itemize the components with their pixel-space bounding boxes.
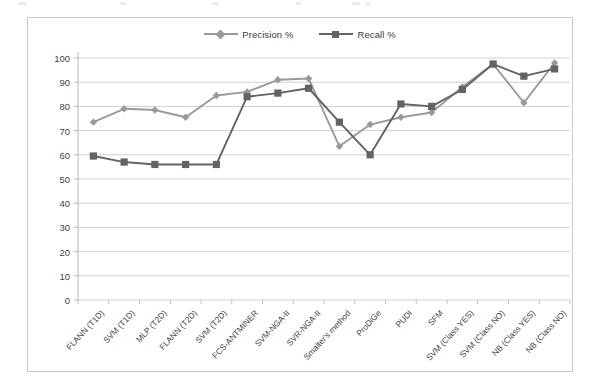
data-point-marker (551, 65, 558, 72)
data-point-marker (244, 93, 251, 100)
y-axis-tick-label: 40 (40, 198, 70, 209)
y-axis-tick-label: 60 (40, 149, 70, 160)
plot-area: 0102030405060708090100FLANN (T1D)SVM (T1… (28, 18, 574, 373)
y-axis-tick-label: 30 (40, 222, 70, 233)
data-point-marker (490, 60, 497, 67)
data-point-marker (90, 118, 97, 125)
data-point-marker (182, 161, 189, 168)
data-point-marker (305, 85, 312, 92)
data-point-marker (151, 161, 158, 168)
scan-edge-artifact (0, 0, 600, 10)
y-axis-tick-label: 0 (40, 295, 70, 306)
data-point-marker (428, 103, 435, 110)
data-point-marker (121, 158, 128, 165)
data-point-marker (520, 73, 527, 80)
y-axis-tick-label: 20 (40, 246, 70, 257)
data-point-marker (213, 161, 220, 168)
y-axis-tick-label: 100 (40, 53, 70, 64)
y-axis-tick-label: 10 (40, 270, 70, 281)
data-point-marker (367, 151, 374, 158)
data-point-marker (336, 119, 343, 126)
chart-frame: Precision % Recall % 0102030405060708090… (27, 17, 573, 372)
y-axis-tick-label: 70 (40, 125, 70, 136)
y-axis-tick-label: 90 (40, 77, 70, 88)
data-point-marker (151, 106, 158, 113)
data-point-marker (305, 75, 312, 82)
data-point-marker (274, 89, 281, 96)
data-point-marker (397, 114, 404, 121)
data-point-marker (459, 86, 466, 93)
y-axis-tick-label: 50 (40, 174, 70, 185)
data-point-marker (90, 152, 97, 159)
data-point-marker (397, 100, 404, 107)
y-axis-tick-label: 80 (40, 101, 70, 112)
